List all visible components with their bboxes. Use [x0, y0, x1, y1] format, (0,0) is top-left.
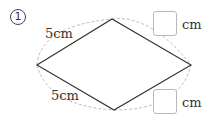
lower-right-answer-box[interactable] — [153, 89, 177, 114]
upper-left-side-label: 5cm — [45, 27, 73, 40]
upper-right-unit-label: cm — [182, 18, 202, 31]
upper-right-answer-box[interactable] — [153, 11, 177, 36]
lower-right-unit-label: cm — [182, 96, 202, 109]
lower-left-side-label: 5cm — [51, 89, 79, 102]
